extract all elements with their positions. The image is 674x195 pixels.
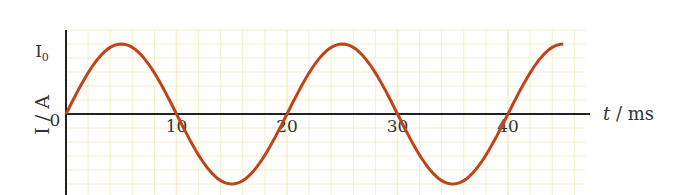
y-axis-label: I / A: [31, 95, 53, 135]
y-tick-i0: I0: [35, 41, 49, 64]
x-tick-labels: 10203040: [166, 116, 519, 136]
sine-current-chart: 10203040 0 I0 I / A t / ms: [0, 0, 674, 195]
x-axis-label: t / ms: [603, 103, 654, 124]
